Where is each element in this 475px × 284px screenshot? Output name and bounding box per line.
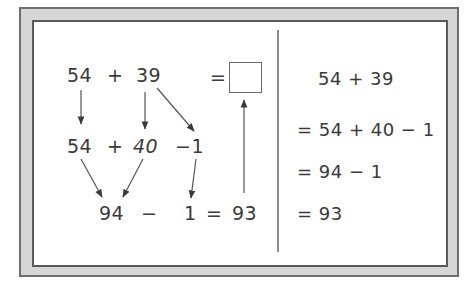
arrow-39-to-minus-one — [157, 88, 194, 131]
arrow-minus-one-to-one — [191, 159, 196, 198]
right-line-4: = 93 — [297, 205, 343, 223]
arrow-40-to-94 — [123, 159, 143, 197]
panel-divider — [277, 30, 279, 252]
right-line-3: = 94 − 1 — [297, 163, 383, 181]
right-line-1: 54 + 39 — [318, 70, 394, 88]
arrows — [0, 0, 475, 284]
arrow-54-to-94 — [81, 159, 102, 197]
right-line-2: = 54 + 40 − 1 — [297, 121, 435, 139]
